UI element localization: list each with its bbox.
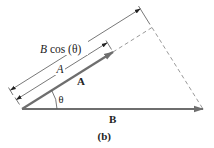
projection-dimension-label: B cos (θ) xyxy=(40,43,81,56)
angle-arc xyxy=(52,90,57,109)
vector-projection-diagram: B cos (θ) A A θ B (b) xyxy=(0,0,214,148)
vector-b-label: B xyxy=(109,113,117,125)
vector-a-arrow xyxy=(22,52,113,109)
dashed-perpendicular-line xyxy=(152,28,203,110)
vector-a-label: A xyxy=(77,75,85,87)
a-dimension-tick-end xyxy=(106,41,112,50)
dashed-extension-line xyxy=(113,28,152,53)
a-magnitude-label: A xyxy=(56,63,65,75)
figure-caption: (b) xyxy=(98,130,112,143)
a-dimension-tick-start xyxy=(15,98,20,105)
projection-dimension-tick-end xyxy=(139,6,151,25)
angle-theta-label: θ xyxy=(59,94,64,105)
